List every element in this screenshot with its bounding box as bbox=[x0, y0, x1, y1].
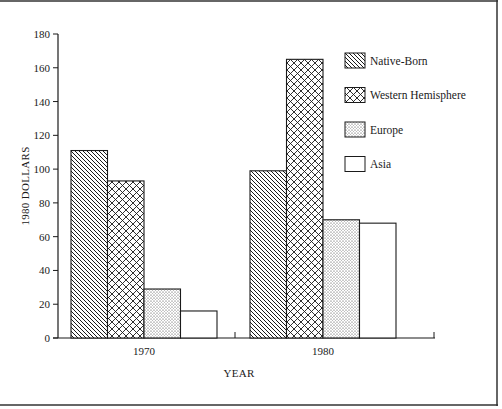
x-tick-label: 1980 bbox=[312, 345, 335, 357]
y-tick-label: 0 bbox=[45, 332, 51, 344]
y-tick-label: 120 bbox=[34, 129, 51, 141]
bar-asia-1970 bbox=[181, 311, 218, 338]
legend-swatch-western-hemisphere bbox=[345, 88, 365, 103]
y-tick-label: 180 bbox=[34, 28, 51, 40]
y-tick-label: 60 bbox=[39, 231, 51, 243]
y-tick-label: 40 bbox=[39, 264, 51, 276]
y-tick-label: 100 bbox=[34, 163, 51, 175]
legend-label-asia: Asia bbox=[370, 158, 391, 170]
y-tick-label: 140 bbox=[34, 96, 51, 108]
legend-label-western-hemisphere: Western Hemisphere bbox=[370, 89, 466, 102]
legend-swatch-asia bbox=[345, 157, 365, 172]
y-axis-title: 1980 DOLLARS bbox=[19, 146, 31, 225]
legend-label-europe: Europe bbox=[370, 124, 403, 137]
legend-label-native-born: Native-Born bbox=[370, 55, 428, 67]
bar-western-hemisphere-1970 bbox=[108, 181, 145, 338]
legend: Native-BornWestern HemisphereEuropeAsia bbox=[345, 53, 466, 172]
y-tick-label: 80 bbox=[39, 197, 51, 209]
legend-swatch-europe bbox=[345, 122, 365, 137]
y-tick-label: 160 bbox=[34, 62, 51, 74]
bar-europe-1980 bbox=[323, 220, 360, 338]
x-axis-title: YEAR bbox=[223, 367, 255, 379]
bar-native-born-1970 bbox=[71, 151, 108, 338]
y-tick-label: 20 bbox=[39, 298, 51, 310]
y-axis: 020406080100120140160180 bbox=[34, 28, 59, 344]
bar-asia-1980 bbox=[360, 223, 397, 338]
bar-europe-1970 bbox=[144, 289, 181, 338]
chart-figure: 020406080100120140160180 19701980 Native… bbox=[0, 0, 502, 409]
x-tick-label: 1970 bbox=[133, 345, 156, 357]
legend-swatch-native-born bbox=[345, 53, 365, 68]
bar-western-hemisphere-1980 bbox=[287, 59, 324, 338]
bar-native-born-1980 bbox=[250, 171, 287, 338]
